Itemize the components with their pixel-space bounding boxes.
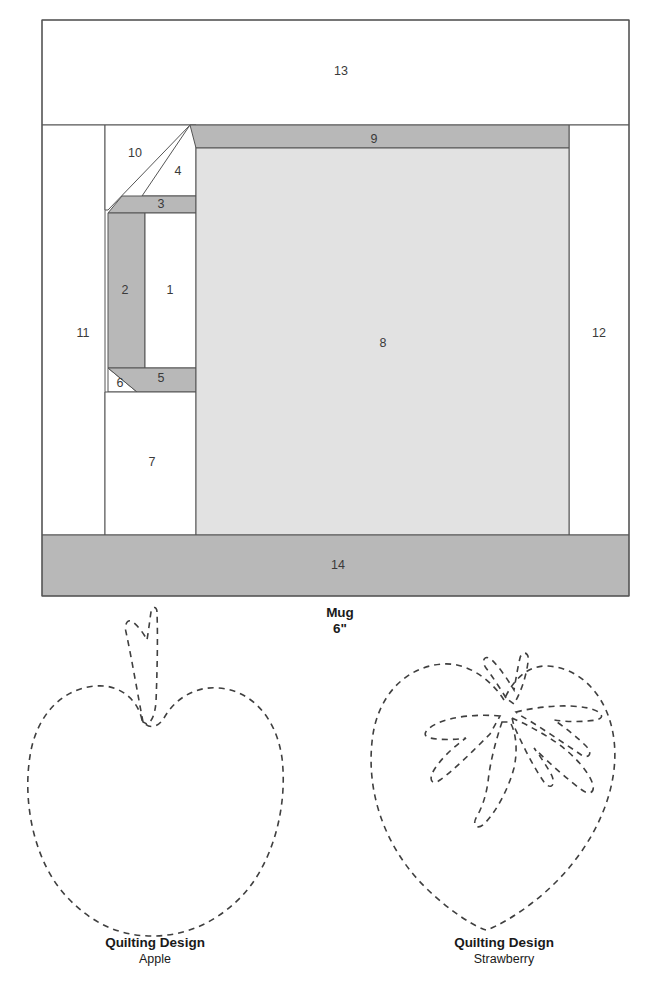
block-piece-3 <box>108 196 196 213</box>
piece-number-1: 1 <box>167 283 174 297</box>
piece-number-12: 12 <box>592 326 606 340</box>
strawberry-leaf-center <box>475 722 516 827</box>
piece-number-5: 5 <box>158 371 165 385</box>
block-piece-11 <box>42 125 105 535</box>
piece-number-13: 13 <box>334 64 348 78</box>
piece-number-7: 7 <box>149 455 156 469</box>
apple-stem-outline <box>125 608 157 725</box>
piece-number-6: 6 <box>117 376 124 390</box>
apple-body-outline <box>28 686 283 936</box>
mug-block-diagram: 1 2 3 4 5 6 7 8 9 10 11 12 13 14 Mug 6" <box>42 20 629 636</box>
piece-number-10: 10 <box>128 146 142 160</box>
strawberry-design-name: Strawberry <box>474 952 535 966</box>
strawberry-body-outline <box>371 664 615 930</box>
piece-number-2: 2 <box>122 283 129 297</box>
block-piece-9 <box>190 125 569 148</box>
strawberry-design-heading: Quilting Design <box>454 935 554 950</box>
strawberry-leaf-far-right <box>516 706 602 757</box>
strawberry-stem-tuft <box>484 653 529 704</box>
block-title: Mug <box>326 605 354 620</box>
piece-number-8: 8 <box>380 336 387 350</box>
apple-design-heading: Quilting Design <box>105 935 205 950</box>
strawberry-leaf-left <box>425 715 500 782</box>
apple-design-name: Apple <box>139 952 171 966</box>
quilt-pattern-page: 1 2 3 4 5 6 7 8 9 10 11 12 13 14 Mug 6" … <box>0 0 651 986</box>
piece-number-3: 3 <box>158 197 165 211</box>
pattern-canvas: 1 2 3 4 5 6 7 8 9 10 11 12 13 14 Mug 6" … <box>0 0 651 986</box>
quilting-design-apple: Quilting Design Apple <box>28 608 283 967</box>
piece-number-11: 11 <box>77 326 90 340</box>
piece-number-14: 14 <box>331 558 345 572</box>
quilting-design-strawberry: Quilting Design Strawberry <box>371 653 615 966</box>
piece-number-9: 9 <box>371 132 378 146</box>
piece-number-4: 4 <box>175 164 182 178</box>
block-size-label: 6" <box>333 621 347 636</box>
